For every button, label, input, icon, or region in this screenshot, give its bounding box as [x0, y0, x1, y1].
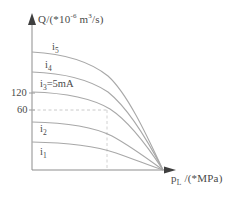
curve-i3: [32, 92, 163, 170]
y-axis-title: Q/(*10-6 m3/s): [38, 13, 104, 25]
curve-label-i5: i5: [52, 42, 59, 55]
y-axis-title-prefix: Q/(*10: [38, 13, 70, 25]
curve-label-i1-subscript: 1: [43, 151, 47, 160]
curve-label-i3-suffix: =5mA: [47, 78, 74, 89]
y-axis-title-unit: m: [77, 13, 89, 25]
y-tick-label-60: 60: [17, 105, 28, 116]
curve-label-i5-subscript: 5: [55, 46, 59, 55]
curve-label-i4-subscript: 4: [48, 64, 52, 73]
y-axis-title-suffix: /s): [92, 13, 104, 25]
y-axis-arrowhead-icon: [28, 13, 36, 25]
curve-label-i3: i3=5mA: [40, 79, 74, 92]
curve-label-i4: i4: [45, 60, 52, 73]
plot-canvas: [0, 0, 232, 199]
flow-pressure-characteristic-figure: Q/(*10-6 m3/s) pL /(*MPa) 120 60 i5 i4 i…: [0, 0, 232, 199]
curve-label-i1: i1: [40, 147, 47, 160]
y-tick-label-120: 120: [11, 88, 27, 99]
x-axis-title-rest: /(*MPa): [182, 172, 223, 184]
curve-label-i2-subscript: 2: [43, 128, 47, 137]
curve-label-i2: i2: [40, 124, 47, 137]
x-axis-title: pL /(*MPa): [171, 173, 223, 187]
